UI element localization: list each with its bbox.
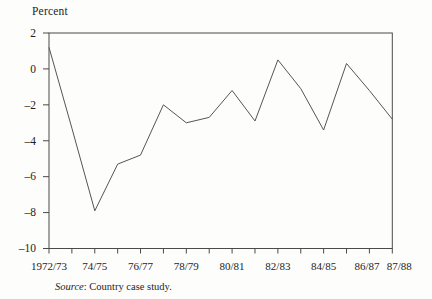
y-tick-label: –2: [24, 99, 37, 111]
x-tick-label: 76/77: [128, 260, 154, 272]
x-tick-label: 84/85: [311, 260, 337, 272]
y-tick-label: –6: [24, 170, 37, 182]
chart-page: Percent 20–2–4–6–8–101972/7374/7576/7778…: [0, 0, 432, 299]
chart-svg: 20–2–4–6–8–101972/7374/7576/7778/7980/81…: [0, 0, 432, 299]
y-tick-label: 2: [30, 27, 36, 39]
x-tick-label: 87/88: [387, 260, 413, 272]
x-tick-label: 78/79: [174, 260, 200, 272]
source-note: Source: Country case study.: [55, 281, 172, 292]
y-tick-label: 0: [30, 63, 36, 75]
x-tick-label: 86/87: [354, 260, 380, 272]
y-tick-label: –8: [24, 206, 37, 218]
source-text: : Country case study.: [84, 281, 172, 292]
x-tick-label: 82/83: [265, 260, 291, 272]
y-tick-label: –10: [18, 242, 37, 254]
plot-frame: [49, 33, 392, 249]
x-tick-label: 80/81: [220, 260, 245, 272]
x-tick-label: 74/75: [82, 260, 108, 272]
source-label: Source: [55, 281, 84, 292]
y-tick-label: –4: [24, 135, 37, 147]
x-tick-label: 1972/73: [31, 260, 68, 272]
data-line: [49, 47, 392, 210]
